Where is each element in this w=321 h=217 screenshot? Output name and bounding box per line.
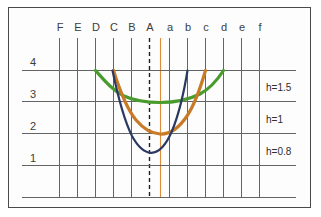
legend-label-h1p5: h=1.5 [266,82,291,93]
y-tick-label-1: 1 [30,152,42,164]
x-tick-label-b: b [180,21,196,33]
x-tick-label-C: C [106,21,122,33]
legend-label-h0p8: h=0.8 [266,146,291,157]
x-tick-label-A: A [142,21,158,33]
x-tick-label-c: c [198,21,214,33]
x-tick-label-D: D [88,21,104,33]
chart-plot-area [0,0,321,217]
vertical-gridlines [60,38,260,198]
x-tick-label-f: f [252,21,268,33]
x-tick-label-E: E [70,21,86,33]
x-tick-label-d: d [216,21,232,33]
chart-figure: F E D C B A a b c d e f 4 3 2 1 h=1.5 h=… [0,0,321,217]
x-tick-label-B: B [124,21,140,33]
y-tick-label-2: 2 [30,120,42,132]
y-tick-label-4: 4 [30,56,42,68]
y-tick-label-3: 3 [30,88,42,100]
x-tick-label-F: F [52,21,68,33]
x-tick-label-e: e [234,21,250,33]
legend-label-h1: h=1 [266,114,283,125]
x-tick-label-a: a [162,21,178,33]
